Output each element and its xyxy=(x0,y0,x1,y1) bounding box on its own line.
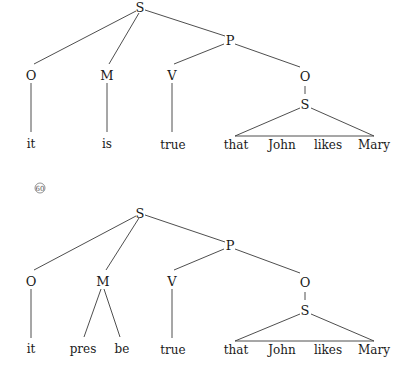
word-true: true xyxy=(160,343,185,357)
word-likes: likes xyxy=(314,343,342,357)
word-that: that xyxy=(224,343,249,357)
word-true: true xyxy=(160,138,185,152)
word-be: be xyxy=(115,342,130,356)
example-number: 60 xyxy=(36,185,45,193)
edge-s-o xyxy=(34,11,136,64)
node-o-left: O xyxy=(26,68,37,83)
node-p: P xyxy=(226,33,235,48)
edge-m-be xyxy=(104,289,120,337)
node-o-left: O xyxy=(26,274,37,289)
edge-s-p xyxy=(145,10,225,36)
word-mary: Mary xyxy=(358,343,390,357)
word-likes: likes xyxy=(314,138,342,152)
node-o-right: O xyxy=(300,69,311,84)
example-number-badge: 60 xyxy=(35,183,45,193)
edge-p-v xyxy=(174,249,224,270)
node-v: V xyxy=(166,68,177,83)
tree-diagrams: S P O M V O S it is true that John likes… xyxy=(0,0,413,375)
node-s-embedded: S xyxy=(301,97,310,112)
edge-s-m xyxy=(106,218,139,270)
word-it: it xyxy=(27,342,36,356)
edge-p-o xyxy=(235,44,300,67)
tree-2: S P O M V O S it pres be true that John … xyxy=(26,206,391,357)
node-s-root: S xyxy=(136,0,145,15)
word-mary: Mary xyxy=(358,138,390,152)
edge-m-pres xyxy=(84,289,101,337)
node-m: M xyxy=(96,274,109,289)
edge-s-m xyxy=(109,13,139,64)
edge-s-p xyxy=(145,215,225,242)
word-is: is xyxy=(102,137,112,151)
node-o-right: O xyxy=(300,275,311,290)
word-john: John xyxy=(266,343,296,357)
triangle-embedded-s xyxy=(235,314,374,341)
word-pres: pres xyxy=(70,342,97,356)
node-m: M xyxy=(100,68,113,83)
word-it: it xyxy=(27,137,36,151)
node-v: V xyxy=(166,274,177,289)
triangle-embedded-s xyxy=(235,108,374,136)
word-that: that xyxy=(224,138,249,152)
node-s-embedded: S xyxy=(301,303,310,318)
edge-s-o xyxy=(34,216,136,270)
node-p: P xyxy=(226,238,235,253)
edge-p-o xyxy=(235,249,300,273)
node-s-root: S xyxy=(136,206,145,221)
tree-1: S P O M V O S it is true that John likes… xyxy=(26,0,391,152)
word-john: John xyxy=(266,138,296,152)
edge-p-v xyxy=(174,44,224,64)
